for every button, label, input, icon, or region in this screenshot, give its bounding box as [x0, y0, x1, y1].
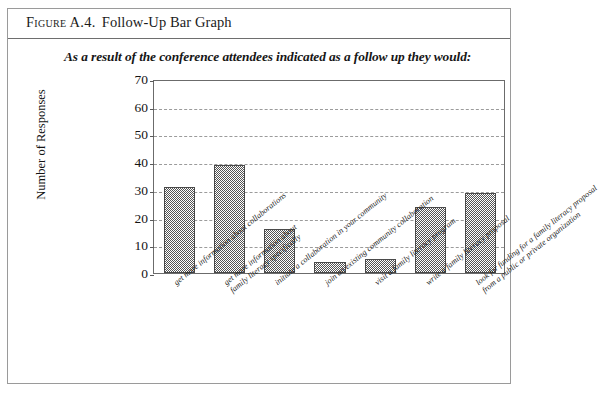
y-axis-tick — [150, 136, 154, 137]
y-axis-tick — [150, 220, 154, 221]
y-axis-tick — [150, 247, 154, 248]
plot-area — [153, 80, 505, 274]
y-axis-tick-labels: 010203040506070 — [112, 9, 148, 385]
bar — [164, 187, 195, 273]
y-axis-tick — [150, 275, 154, 276]
y-axis-title: Number of Responses — [34, 65, 49, 225]
bar — [314, 262, 345, 273]
bar — [264, 229, 295, 273]
y-axis-tick-label: 30 — [118, 184, 148, 198]
y-axis-tick-label: 20 — [118, 212, 148, 226]
bars-group — [154, 81, 504, 273]
y-axis-tick-label: 60 — [118, 101, 148, 115]
bar — [214, 165, 245, 273]
y-axis-tick-label: 70 — [118, 73, 148, 87]
figure-container: Figure A.4.Follow-Up Bar Graph As a resu… — [7, 8, 511, 384]
bar — [465, 193, 496, 273]
y-axis-tick-label: 0 — [118, 267, 148, 281]
bar-chart: Number of Responses 010203040506070 get … — [8, 9, 512, 385]
y-axis-tick — [150, 109, 154, 110]
y-axis-tick — [150, 192, 154, 193]
bar — [415, 207, 446, 274]
y-axis-tick-label: 10 — [118, 239, 148, 253]
y-axis-tick — [150, 164, 154, 165]
y-axis-tick-label: 40 — [118, 156, 148, 170]
y-axis-tick-label: 50 — [118, 128, 148, 142]
y-axis-tick — [150, 81, 154, 82]
bar — [365, 259, 396, 273]
